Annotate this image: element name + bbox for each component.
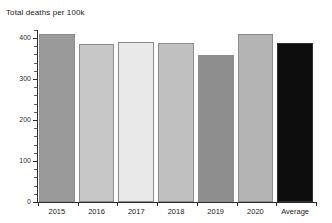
bar-2019[interactable]	[198, 55, 234, 202]
y-tick-minor	[34, 128, 37, 129]
bar-2016[interactable]	[79, 44, 115, 202]
y-tick-minor	[34, 177, 37, 178]
y-tick-minor	[34, 46, 37, 47]
y-tick-minor	[34, 63, 37, 64]
y-axis-tick-label: 200	[3, 116, 31, 123]
bar-average[interactable]	[277, 43, 313, 202]
x-tick	[117, 202, 118, 206]
x-axis-label-2020: 2020	[238, 207, 274, 216]
y-tick-minor	[34, 153, 37, 154]
x-axis-label-2019: 2019	[198, 207, 234, 216]
y-tick-minor	[34, 87, 37, 88]
y-tick-minor	[34, 71, 37, 72]
x-tick	[78, 202, 79, 206]
bar-2017[interactable]	[118, 42, 154, 202]
y-tick-minor	[34, 194, 37, 195]
bar-2015[interactable]	[39, 34, 75, 202]
x-axis-label-2016: 2016	[79, 207, 115, 216]
x-tick	[38, 202, 39, 206]
x-axis-line	[37, 202, 317, 203]
x-tick	[197, 202, 198, 206]
y-axis-tick-label: 100	[3, 157, 31, 164]
y-axis-line	[37, 30, 38, 203]
y-tick-major	[33, 38, 37, 39]
bar-2018[interactable]	[158, 43, 194, 202]
y-tick-minor	[34, 54, 37, 55]
y-tick-minor	[34, 95, 37, 96]
y-tick-minor	[34, 112, 37, 113]
y-tick-minor	[34, 30, 37, 31]
x-tick	[157, 202, 158, 206]
x-tick	[316, 202, 317, 206]
y-axis-tick-label: 300	[3, 75, 31, 82]
y-axis-tick-label: 0	[3, 198, 31, 205]
chart-title: Total deaths per 100k	[6, 8, 85, 17]
y-tick-major	[33, 161, 37, 162]
y-tick-minor	[34, 136, 37, 137]
y-tick-major	[33, 79, 37, 80]
x-axis-label-2018: 2018	[158, 207, 194, 216]
y-tick-minor	[34, 186, 37, 187]
x-axis-label-2017: 2017	[118, 207, 154, 216]
y-tick-minor	[34, 104, 37, 105]
y-tick-minor	[34, 145, 37, 146]
x-axis-label-2015: 2015	[39, 207, 75, 216]
bar-chart: Total deaths per 100k 0100200300400 2015…	[0, 0, 332, 223]
y-tick-major	[33, 202, 37, 203]
bar-2020[interactable]	[238, 34, 274, 202]
y-tick-minor	[34, 169, 37, 170]
y-axis-tick-label: 400	[3, 34, 31, 41]
y-tick-major	[33, 120, 37, 121]
x-tick	[276, 202, 277, 206]
x-tick	[237, 202, 238, 206]
x-axis-label-average: Average	[277, 207, 313, 216]
